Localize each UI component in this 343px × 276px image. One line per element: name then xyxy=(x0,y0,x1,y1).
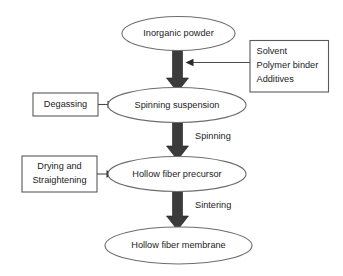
side-box-drying-line-2: Straightening xyxy=(32,175,86,185)
block-arrow-precursor-to-membrane xyxy=(167,188,189,230)
flowchart-canvas: Inorganic powder Spinning suspension Hol… xyxy=(0,0,343,276)
node-inorganic-powder-label: Inorganic powder xyxy=(143,28,213,38)
side-box-additives-line-1: Solvent xyxy=(257,46,288,56)
block-arrow-suspension-to-precursor xyxy=(167,120,189,160)
connector-additives-to-arrow xyxy=(186,59,251,66)
node-spinning-suspension-label: Spinning suspension xyxy=(135,100,220,110)
side-box-additives-line-3: Additives xyxy=(257,74,295,84)
node-hollow-fiber-precursor[interactable]: Hollow fiber precursor xyxy=(108,157,246,192)
edge-label-sintering: Sintering xyxy=(195,200,231,210)
node-hollow-fiber-membrane-label: Hollow fiber membrane xyxy=(131,240,225,250)
node-spinning-suspension[interactable]: Spinning suspension xyxy=(108,88,246,123)
node-hollow-fiber-membrane[interactable]: Hollow fiber membrane xyxy=(105,227,252,264)
side-box-degassing[interactable]: Degassing xyxy=(33,93,98,116)
flowchart-diagram: Inorganic powder Spinning suspension Hol… xyxy=(0,0,343,276)
side-box-additives[interactable]: Solvent Polymer binder Additives xyxy=(250,41,329,93)
side-box-drying-straightening[interactable]: Drying and Straightening xyxy=(22,156,97,192)
edge-label-spinning: Spinning xyxy=(195,131,231,141)
side-box-drying-line-1: Drying and xyxy=(37,161,81,171)
side-box-additives-line-2: Polymer binder xyxy=(257,60,319,70)
node-inorganic-powder[interactable]: Inorganic powder xyxy=(122,17,235,51)
block-arrow-powder-to-suspension xyxy=(167,48,189,92)
side-box-degassing-label: Degassing xyxy=(44,99,87,109)
node-hollow-fiber-precursor-label: Hollow fiber precursor xyxy=(132,169,221,179)
